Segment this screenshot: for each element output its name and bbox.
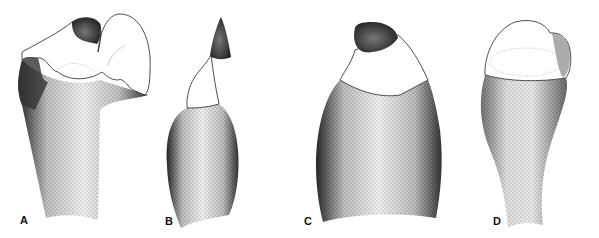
panel-label-d: D (493, 216, 501, 227)
illustration-canvas (0, 0, 599, 238)
panel-label-b: B (165, 216, 173, 227)
panel-label-c: C (304, 216, 312, 227)
figure: A B C D (0, 0, 599, 238)
specimen-b-drawing (167, 17, 239, 228)
specimen-c-drawing (316, 22, 442, 222)
specimen-a-drawing (18, 14, 150, 220)
panel-label-a: A (20, 215, 28, 226)
specimen-d-drawing (481, 20, 571, 228)
